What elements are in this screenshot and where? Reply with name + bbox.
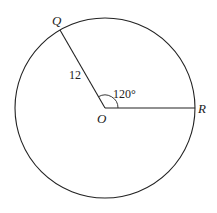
center-label-O: O [97,111,107,126]
angle-label: 120° [113,87,136,101]
circle-diagram: Q R O 12 120° [0,0,217,213]
point-label-Q: Q [52,13,62,28]
point-label-R: R [197,101,206,116]
radius-OQ [60,30,105,108]
radius-label: 12 [69,68,81,82]
